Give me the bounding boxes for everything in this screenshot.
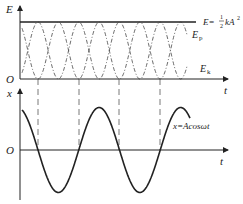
kinetic-energy-curve [22, 22, 187, 79]
phase-guide-lines [38, 79, 160, 150]
energy-axis-label: E [5, 3, 13, 15]
svg-text:1: 1 [220, 14, 223, 20]
energy-origin-label: O [6, 73, 14, 85]
displacement-time-label: t [220, 155, 224, 167]
displacement-graph: x O t x=Acosωt [6, 87, 228, 200]
svg-text:kA: kA [225, 17, 235, 27]
displacement-origin-label: O [6, 144, 14, 156]
total-energy-label: E= 1 2 kA 2 [202, 14, 240, 29]
svg-text:E: E [191, 29, 198, 40]
potential-energy-label: E p [191, 29, 203, 42]
kinetic-energy-label: E k [199, 63, 211, 76]
energy-displacement-diagram: E O t E= 1 2 kA 2 E p E k x O t [0, 0, 243, 204]
energy-time-label: t [224, 84, 228, 96]
svg-text:2: 2 [220, 23, 223, 29]
curve-equation-label: x=Acosωt [172, 121, 210, 131]
svg-text:k: k [207, 68, 211, 76]
svg-text:2: 2 [237, 15, 240, 21]
energy-graph: E O t E= 1 2 kA 2 E p E k [5, 3, 240, 96]
displacement-axis-label: x [6, 87, 12, 99]
svg-text:p: p [199, 34, 203, 42]
svg-text:E: E [199, 63, 206, 74]
potential-energy-curve [22, 22, 187, 79]
svg-text:E=: E= [202, 17, 215, 27]
